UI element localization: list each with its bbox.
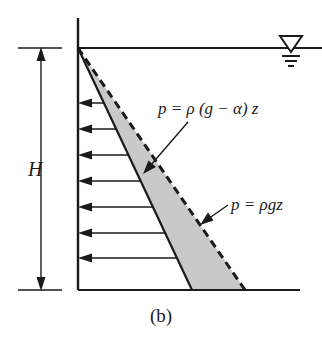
hydrostatic-pressure-line-dashed xyxy=(78,48,245,290)
depth-dimension-label: H xyxy=(28,158,42,181)
leader-hydrostatic-pressure xyxy=(200,205,228,225)
pressure-arrow xyxy=(78,177,140,186)
pressure-arrow xyxy=(78,125,116,134)
dimension-arrowhead-up xyxy=(37,47,46,61)
pressure-distribution-figure: p = ρ (g − α) z p = ρgz H (b) xyxy=(0,0,322,350)
pressure-arrow xyxy=(78,229,165,238)
pressure-arrow xyxy=(78,203,153,212)
leader-modified-pressure xyxy=(143,122,188,174)
pressure-arrow xyxy=(78,254,177,263)
free-surface-icon xyxy=(280,36,302,66)
modified-pressure-line-solid xyxy=(78,48,192,290)
label-modified-pressure: p = ρ (g − α) z xyxy=(158,100,258,117)
pressure-arrow xyxy=(78,99,104,108)
figure-drawing xyxy=(0,0,322,350)
dimension-arrowhead-down xyxy=(37,277,46,291)
label-hydrostatic-pressure: p = ρgz xyxy=(231,196,283,213)
pressure-arrow xyxy=(78,151,128,160)
figure-caption: (b) xyxy=(0,305,322,327)
